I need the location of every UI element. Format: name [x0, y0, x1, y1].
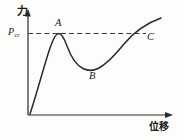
- force-displacement-diagram: 力 位移 Pcr A B C: [0, 0, 185, 140]
- point-label-b: B: [89, 71, 95, 82]
- y-axis-label: 力: [17, 6, 28, 17]
- x-axis-arrow-icon: [165, 112, 173, 118]
- x-axis-label: 位移: [149, 122, 169, 132]
- y-axis: [25, 9, 31, 115]
- critical-load-tick-label: Pcr: [8, 27, 19, 37]
- point-label-a: A: [55, 18, 61, 29]
- x-axis: [28, 112, 173, 118]
- critical-load-subscript: cr: [14, 31, 19, 38]
- point-label-c: C: [147, 32, 154, 43]
- load-displacement-curve: [30, 18, 161, 114]
